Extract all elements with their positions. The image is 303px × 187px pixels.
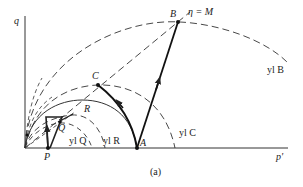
label-c: C [92,70,99,81]
label-p: P [43,151,50,162]
label-yl-r: yl R [103,135,120,146]
point-a [135,146,139,150]
q-axis-label: q [14,15,19,26]
label-b: B [170,8,176,19]
figure-caption: (a) [150,166,161,178]
stress-path-ab-arrow [156,80,159,90]
point-origin [25,133,28,136]
stress-path-pq-arrow [47,128,48,148]
label-yl-b: yl B [267,64,284,75]
label-a: A [139,137,147,148]
critical-state-line [25,12,190,148]
point-b [176,20,180,24]
p-axis-label: p' [275,151,284,162]
label-yl-q: yl Q [69,135,87,146]
label-eta-m: η = M [188,6,214,17]
label-yl-c: yl C [179,127,196,138]
label-q: Q [58,122,66,133]
label-r: R [83,103,90,114]
point-p [46,146,50,150]
point-c [96,83,100,87]
stress-path-diagram: q p' B η = M C R Q P A yl B yl C yl R yl… [0,0,303,187]
